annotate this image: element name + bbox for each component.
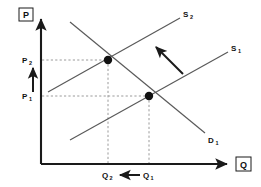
axes-group — [41, 19, 227, 164]
y-axis-label-text: P — [23, 10, 29, 20]
quantity-tick-q2-label: Q — [102, 171, 108, 180]
equilibrium-point-1 — [145, 92, 153, 100]
supply-s2-label: S — [183, 10, 189, 19]
diagram-canvas: P Q S 2 S 1 D — [0, 0, 261, 187]
quantity-tick-q2-sublabel: 2 — [110, 175, 113, 181]
equilibrium-points-group — [104, 56, 153, 100]
quantity-tick-q1-sublabel: 1 — [151, 175, 154, 181]
curves-group — [48, 18, 228, 140]
x-axis-label-box: Q — [236, 157, 251, 171]
supply-s1-label: S — [231, 44, 237, 53]
supply-shift-arrow — [156, 47, 183, 74]
quantity-tick-q1-label: Q — [143, 171, 149, 180]
equilibrium-point-2 — [104, 56, 112, 64]
price-tick-p1-sublabel: 1 — [29, 96, 32, 102]
price-tick-p2-label: P — [22, 56, 28, 65]
demand-curve-d1 — [70, 22, 205, 133]
supply-s1-sublabel: 1 — [238, 48, 241, 54]
demand-d1-sublabel: 1 — [216, 140, 219, 146]
supply-demand-diagram: P Q S 2 S 1 D — [0, 0, 261, 187]
x-axis-label-text: Q — [240, 160, 247, 170]
price-tick-labels-group: P 2 P 1 — [22, 56, 32, 102]
supply-s2-sublabel: 2 — [190, 14, 193, 20]
curve-labels-group: S 2 S 1 D 1 — [183, 10, 241, 146]
demand-d1-label: D — [208, 136, 214, 145]
price-tick-p1-label: P — [22, 92, 28, 101]
price-tick-p2-sublabel: 2 — [29, 60, 32, 66]
supply-curve-s2 — [48, 18, 180, 92]
guide-lines-group — [42, 60, 149, 163]
y-axis-label-box: P — [19, 8, 33, 21]
